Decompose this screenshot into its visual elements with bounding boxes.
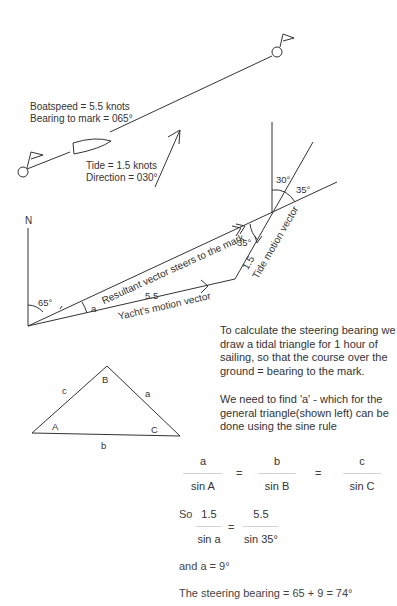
fraction-numerator: b: [258, 455, 296, 473]
result-a-label: and a = 9°: [179, 560, 230, 572]
finish-mark-icon: [272, 47, 282, 57]
finish-flag-icon: [280, 34, 294, 47]
angle-35-outer-label: 35°: [296, 184, 310, 196]
sine-rule-fraction-b: b sin B: [258, 455, 296, 492]
tide-label: Tide = 1.5 knots: [86, 160, 157, 172]
steering-bearing-label: The steering bearing = 65 + 9 = 74°: [179, 587, 353, 599]
side-c-label: c: [62, 385, 67, 397]
explanation-para-1: To calculate the steering bearing we dra…: [220, 324, 397, 378]
fraction-numerator: a: [183, 455, 223, 473]
solution-fraction-2: 5.5 sin 35°: [240, 508, 282, 545]
fraction-denominator: sin 35°: [240, 527, 282, 545]
direction-label: Direction = 030°: [86, 172, 158, 184]
north-label: N: [25, 215, 32, 227]
equals-sign-2: =: [315, 467, 321, 479]
side-a-label: a: [145, 388, 150, 400]
start-mark-icon: [18, 167, 28, 177]
fraction-numerator: c: [343, 455, 381, 473]
angle-65-label: 65°: [38, 297, 52, 309]
fraction-denominator: sin B: [258, 474, 296, 492]
vertex-c-label: C: [151, 424, 158, 436]
sine-rule-fraction-c: c sin C: [343, 455, 381, 492]
sine-rule-fraction-a: a sin A: [183, 455, 223, 492]
angle-a-label: a: [91, 303, 96, 315]
solution-equals: =: [228, 521, 234, 533]
length-55-label: 5.5: [145, 290, 158, 302]
fraction-numerator: 1.5: [194, 508, 224, 526]
bearing-label: Bearing to mark = 065°: [30, 113, 133, 125]
boat-icon: [73, 139, 111, 154]
fraction-denominator: sin C: [343, 474, 381, 492]
fraction-denominator: sin A: [183, 474, 223, 492]
solution-fraction-1: 1.5 sin a: [194, 508, 224, 545]
vertex-b-label: B: [102, 374, 108, 386]
vertex-a-label: A: [52, 421, 58, 433]
fraction-denominator: sin a: [194, 527, 224, 545]
equals-sign-1: =: [236, 467, 242, 479]
explanation-para-2: We need to find 'a' - which for the gene…: [220, 393, 397, 434]
fraction-numerator: 5.5: [240, 508, 282, 526]
angle-30-label: 30°: [276, 174, 290, 186]
boatspeed-label: Boatspeed = 5.5 knots: [30, 101, 130, 113]
side-b-label: b: [101, 440, 106, 452]
so-label: So: [179, 508, 192, 520]
tide-arrow-icon: [155, 130, 180, 187]
